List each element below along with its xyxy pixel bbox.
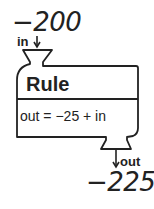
rule-formula: out = −25 + in	[20, 109, 106, 123]
input-label: in	[17, 35, 29, 48]
output-arrow-icon	[113, 150, 119, 167]
output-value: −225	[86, 169, 154, 195]
input-value: −200	[12, 9, 81, 35]
input-arrow-icon	[34, 36, 40, 47]
rule-title: Rule	[26, 74, 69, 94]
